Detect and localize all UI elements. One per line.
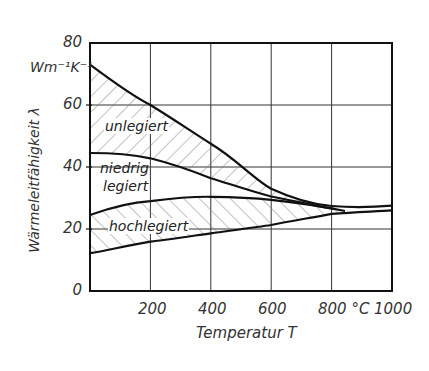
y-tick-80: 80 — [56, 33, 82, 51]
y-tick-60: 60 — [56, 95, 82, 113]
region-label-niedrig: niedrig — [100, 160, 149, 176]
x-tick-200: 200 — [138, 300, 167, 318]
x-axis-label: Temperatur T — [196, 324, 297, 342]
x-tick-400: 400 — [198, 300, 227, 318]
y-tick-20: 20 — [56, 219, 82, 237]
y-axis-label: Wärmeleitfähigkeit λ — [26, 105, 42, 255]
region-label-hochlegiert: hochlegiert — [108, 218, 189, 234]
x-tick-1000: 1000 — [374, 300, 412, 318]
y-unit-label: Wm⁻¹K⁻¹ — [30, 59, 93, 75]
x-tick-800: 800 °C — [318, 300, 369, 318]
region-label-legiert: legiert — [103, 178, 148, 194]
y-tick-40: 40 — [56, 157, 82, 175]
x-tick-600: 600 — [258, 300, 287, 318]
region-label-unlegiert: unlegiert — [104, 118, 169, 134]
y-tick-0: 0 — [56, 281, 82, 299]
